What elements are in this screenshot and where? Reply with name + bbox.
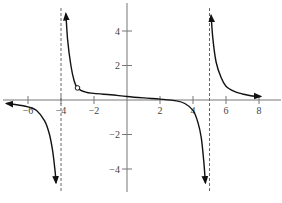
y-tick-label: −2 bbox=[109, 129, 120, 140]
x-tick-label: 6 bbox=[224, 105, 229, 116]
middle-branch-curve bbox=[66, 14, 206, 183]
y-tick-label: 4 bbox=[115, 26, 120, 37]
x-tick-label: −2 bbox=[89, 105, 100, 116]
y-tick-label: 2 bbox=[115, 60, 120, 71]
y-tick-label: −4 bbox=[109, 164, 120, 175]
right-branch-curve bbox=[211, 16, 261, 97]
open-circle-hole bbox=[75, 86, 80, 91]
function-graph: −6−4−22468 42−2−4 bbox=[0, 0, 282, 203]
hole-point bbox=[75, 86, 80, 91]
x-axis-ticks: −6−4−22468 bbox=[23, 96, 262, 116]
x-tick-label: 2 bbox=[158, 105, 163, 116]
function-curves bbox=[7, 14, 261, 183]
x-tick-label: 8 bbox=[257, 105, 262, 116]
